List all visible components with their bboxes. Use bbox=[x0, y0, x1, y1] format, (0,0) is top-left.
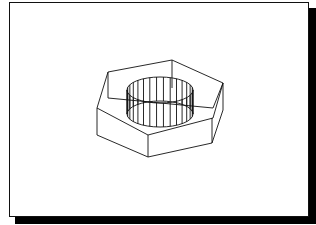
hex-edge bbox=[148, 143, 212, 157]
hex-edge bbox=[213, 83, 223, 108]
cylinder-bottom-ellipse bbox=[127, 101, 193, 127]
hex-edge bbox=[97, 135, 148, 157]
hex-edge bbox=[213, 83, 223, 118]
hex-nut-wireframe-drawing bbox=[0, 0, 316, 225]
cylinder-top-ellipse bbox=[127, 77, 193, 103]
hex-edge bbox=[148, 118, 213, 135]
hex-edge bbox=[108, 60, 172, 72]
hex-edge bbox=[97, 72, 108, 108]
hex-edge bbox=[97, 108, 148, 135]
